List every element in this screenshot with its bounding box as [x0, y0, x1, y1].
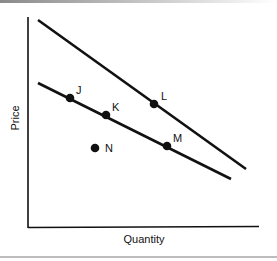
bottom-divider — [0, 256, 277, 258]
point-j: J — [66, 84, 82, 102]
point-label-l: L — [161, 90, 167, 102]
point-label-m: M — [173, 132, 182, 144]
price-quantity-diagram: J K L M N Price Quantity — [0, 0, 277, 261]
point-n: N — [91, 142, 113, 154]
x-axis-label: Quantity — [124, 233, 165, 245]
point-label-n: N — [105, 142, 113, 154]
point-label-k: K — [112, 101, 120, 113]
point-label-j: J — [76, 84, 82, 96]
point-m: M — [163, 132, 182, 150]
point-k: K — [102, 101, 120, 119]
y-axis-label: Price — [9, 105, 21, 130]
x-axis — [28, 227, 259, 228]
